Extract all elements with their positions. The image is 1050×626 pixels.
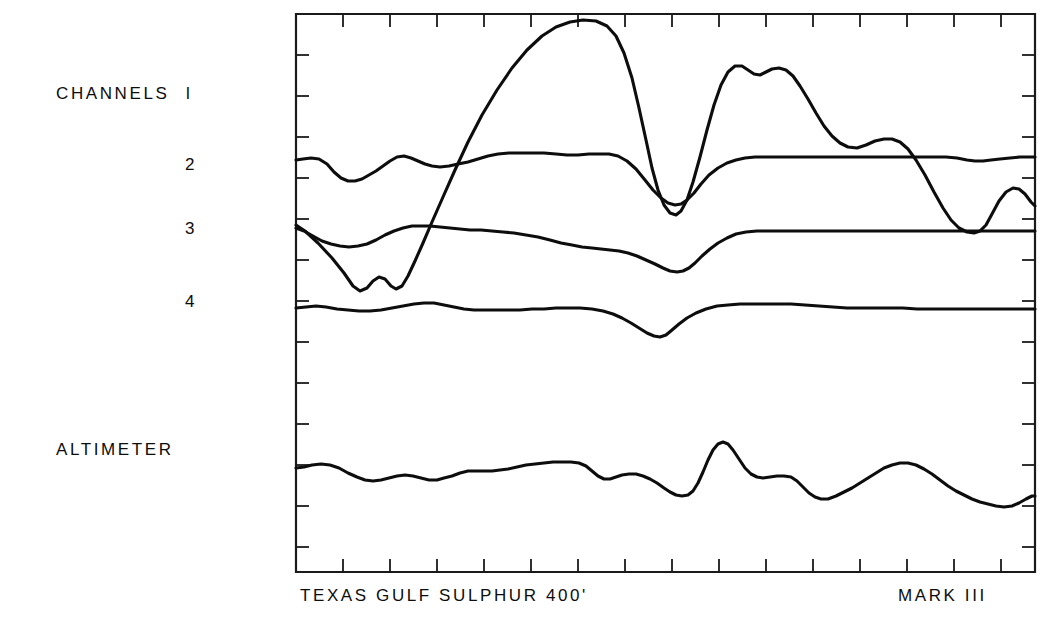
legend-label-channel-3: 3 [185, 219, 194, 239]
x-axis-caption-system: MARK III [898, 586, 987, 606]
legend-label-channel-4: 4 [185, 292, 194, 312]
legend-label-channels: CHANNELS [56, 84, 169, 104]
x-axis-caption-site: TEXAS GULF SULPHUR 400' [300, 586, 588, 606]
legend-label-channel-2: 2 [185, 155, 194, 175]
legend-label-channel-1: l [186, 84, 190, 104]
legend-label-altimeter: ALTIMETER [56, 440, 174, 460]
